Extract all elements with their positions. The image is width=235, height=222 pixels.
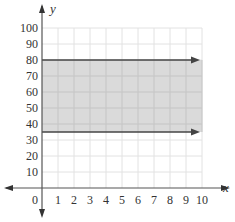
x-tick-label: 5 (119, 193, 125, 207)
x-tick-label: 6 (135, 193, 141, 207)
y-tick-label: 80 (26, 53, 38, 67)
x-tick-label: 7 (151, 193, 157, 207)
x-tick-label: 4 (103, 193, 109, 207)
x-tick-label: 9 (183, 193, 189, 207)
x-tick-label: 2 (71, 193, 77, 207)
y-tick-label: 70 (26, 69, 38, 83)
arrow-up-icon (39, 4, 45, 13)
y-axis-label: y (48, 1, 56, 16)
x-tick-label: 10 (196, 193, 208, 207)
y-tick-label: 50 (26, 101, 38, 115)
y-tick-label: 20 (26, 149, 38, 163)
arrow-left-icon (4, 185, 13, 191)
x-tick-label: 8 (167, 193, 173, 207)
x-tick-label: 3 (87, 193, 93, 207)
x-tick-label: 1 (55, 193, 61, 207)
y-tick-label: 90 (26, 37, 38, 51)
arrow-down-icon (39, 209, 45, 218)
y-tick-label: 10 (26, 165, 38, 179)
y-tick-label: 40 (26, 117, 38, 131)
band-chart: 012345678910102030405060708090100 x y (0, 0, 235, 222)
y-tick-label: 60 (26, 85, 38, 99)
y-tick-label: 30 (26, 133, 38, 147)
y-tick-label: 100 (20, 21, 38, 35)
x-tick-label: 0 (32, 193, 38, 207)
x-axis-label: x (222, 180, 229, 195)
